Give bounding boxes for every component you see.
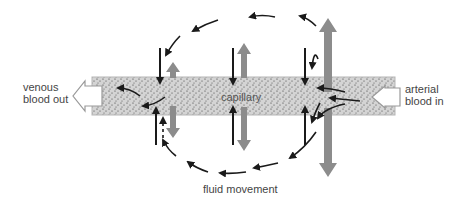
arterial-blood-in-label: arterial blood in: [405, 83, 444, 107]
arterial-line-1: arterial: [405, 83, 444, 95]
venous-line-2: blood out: [23, 93, 68, 105]
fluid-movement-label: fluid movement: [203, 183, 278, 195]
capillary-label: capillary: [221, 91, 261, 103]
venous-out-arrow-icon: [73, 81, 102, 111]
venous-line-1: venous: [23, 81, 68, 93]
venous-blood-out-label: venous blood out: [23, 81, 68, 105]
arterial-line-2: blood in: [405, 95, 444, 107]
